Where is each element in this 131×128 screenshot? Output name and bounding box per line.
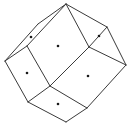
- edge-bottom_right-right: [87, 65, 126, 108]
- center-right-face-dot: [87, 75, 90, 78]
- edge-bottom-bottom_right: [66, 108, 87, 122]
- edge-bottom_right-center_low: [50, 86, 87, 108]
- polyhedron-svg: [0, 0, 131, 128]
- edge-top-upper_left_outer: [38, 4, 66, 24]
- top-center-face-dot: [57, 45, 60, 48]
- edge-center-right_top: [89, 27, 107, 47]
- upper-left-thin-face-dot: [30, 36, 33, 39]
- edge-bottom_left-center_low: [28, 86, 50, 102]
- edge-upper_left_outer-left: [5, 24, 38, 61]
- rhombic-dodecahedron-diagram: [0, 0, 131, 128]
- edge-right_top-right: [107, 27, 126, 65]
- top-right-face-dot: [98, 35, 101, 38]
- edge-bottom_left-bottom: [28, 102, 66, 122]
- edge-center-right: [89, 47, 126, 65]
- polyhedron-edges: [5, 4, 126, 122]
- left-face-dot: [26, 72, 29, 75]
- face-dots: [26, 35, 101, 106]
- edge-top-inner_left: [27, 4, 66, 46]
- edge-left-bottom_left: [5, 61, 28, 102]
- edge-center-center_low: [50, 47, 89, 86]
- bottom-face-dot: [57, 103, 60, 106]
- edge-inner_left-center_low: [27, 46, 50, 86]
